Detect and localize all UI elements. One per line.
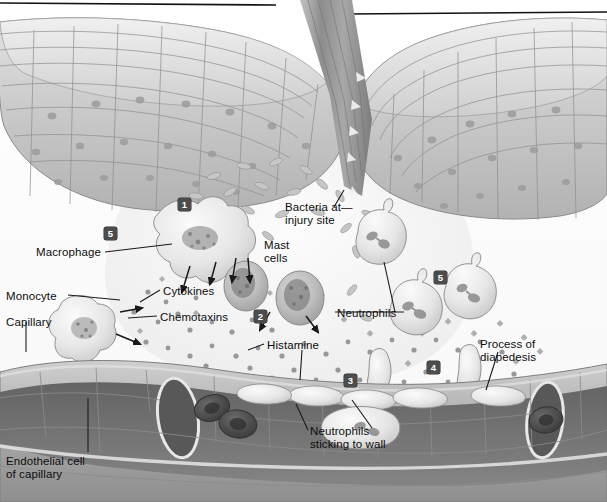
step-marker-3: 3 — [344, 374, 357, 387]
step-marker-2: 2 — [254, 310, 267, 323]
figure-canvas: Macrophage Monocyte Capillary Cytokines … — [0, 0, 607, 502]
label-cytokines: Cytokines — [163, 285, 214, 298]
step-marker-1: 1 — [178, 198, 191, 211]
step-marker-5: 5 — [104, 227, 117, 240]
label-neutrophils: Neutrophils — [337, 307, 396, 320]
mast-cell-1 — [224, 261, 268, 311]
label-histamine: Histamine — [267, 339, 319, 352]
label-bacteria-injury-site: Bacteria at— injury site — [285, 201, 353, 226]
label-macrophage: Macrophage — [36, 246, 101, 259]
mast-cell-2 — [276, 271, 324, 325]
label-capillary: Capillary — [6, 316, 52, 329]
label-monocyte: Monocyte — [6, 290, 57, 303]
label-process-of-diapedesis: Process of diapedesis — [480, 338, 536, 363]
step-marker-4: 4 — [427, 361, 440, 374]
capillary — [0, 361, 607, 502]
label-endothelial-cell-of-capillary: Endothelial cell of capillary — [6, 455, 85, 480]
label-neutrophils-sticking-to-wall: Neutrophils sticking to wall — [310, 425, 386, 450]
step-marker-5b: 5 — [434, 271, 447, 284]
label-mast-cells: Mast cells — [264, 239, 289, 264]
label-chemotaxins: Chemotaxins — [160, 311, 228, 324]
